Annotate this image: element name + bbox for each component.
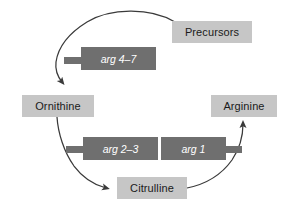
gene-box-arg-1: arg 1 bbox=[161, 137, 226, 160]
metabolite-box-ornithine: Ornithine bbox=[22, 95, 94, 117]
metabolite-label-arginine: Arginine bbox=[223, 100, 264, 112]
gene-box-arg-4-7: arg 4–7 bbox=[81, 47, 156, 70]
gene-label-arg-2-3: arg 2–3 bbox=[103, 143, 139, 155]
metabolite-label-ornithine: Ornithine bbox=[35, 100, 81, 112]
gene-label-arg-1: arg 1 bbox=[182, 143, 206, 155]
metabolite-box-precursors: Precursors bbox=[172, 21, 252, 43]
metabolite-box-arginine: Arginine bbox=[211, 95, 277, 117]
gene-label-arg-4-7: arg 4–7 bbox=[101, 53, 137, 65]
metabolite-box-citrulline: Citrulline bbox=[117, 177, 187, 199]
pathway-diagram: Precursors Ornithine Arginine Citrulline… bbox=[0, 0, 300, 213]
gene-box-arg-2-3: arg 2–3 bbox=[83, 137, 158, 160]
metabolite-label-precursors: Precursors bbox=[185, 26, 239, 38]
metabolite-label-citrulline: Citrulline bbox=[130, 182, 174, 194]
